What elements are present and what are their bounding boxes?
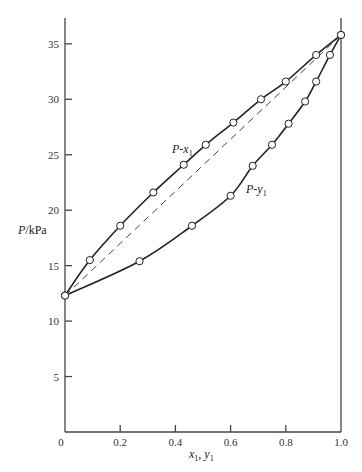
axes	[65, 18, 341, 432]
data-point-marker	[313, 78, 320, 85]
y-tick-label: 20	[48, 204, 60, 216]
y-tick-label: 10	[48, 315, 60, 327]
data-point-marker	[337, 31, 344, 38]
x-tick-label: 1.0	[334, 436, 348, 448]
p-x1-line	[65, 35, 341, 296]
raoult-s-law-linear-line	[65, 35, 341, 296]
data-point-marker	[136, 258, 143, 265]
y-tick-label: 35	[48, 38, 60, 50]
series-labels: P-x1P-y1	[171, 142, 267, 198]
data-series	[61, 31, 344, 299]
x-tick-label: 0	[58, 436, 64, 448]
y-axis-label: P/kPa	[17, 223, 47, 237]
series-label-p-x1: P-x1	[171, 142, 193, 158]
data-point-marker	[249, 162, 256, 169]
data-point-marker	[230, 119, 237, 126]
y-tick-label: 5	[54, 371, 60, 383]
data-point-marker	[313, 51, 320, 58]
x-axis-label: x1, y1	[188, 447, 214, 463]
data-point-marker	[326, 51, 333, 58]
data-point-marker	[117, 222, 124, 229]
data-point-marker	[202, 141, 209, 148]
y-tick-label: 30	[48, 93, 60, 105]
x-tick-label: 0.8	[279, 436, 293, 448]
data-point-marker	[282, 78, 289, 85]
data-point-marker	[86, 257, 93, 264]
data-point-marker	[285, 120, 292, 127]
series-label-p-y1: P-y1	[245, 182, 267, 198]
x-tick-label: 0.2	[113, 436, 127, 448]
y-tick-label: 25	[48, 149, 60, 161]
data-point-marker	[188, 222, 195, 229]
p-y1-line	[65, 35, 341, 296]
data-point-marker	[150, 189, 157, 196]
data-point-marker	[302, 98, 309, 105]
data-point-marker	[227, 192, 234, 199]
x-tick-label: 0.4	[169, 436, 183, 448]
data-point-marker	[257, 96, 264, 103]
data-point-marker	[268, 141, 275, 148]
x-tick-label: 0.6	[224, 436, 238, 448]
vle-pressure-composition-chart: 510152025303500.20.40.60.81.0 P-x1P-y1 P…	[0, 0, 362, 472]
y-tick-label: 15	[48, 260, 60, 272]
data-point-marker	[180, 161, 187, 168]
data-point-marker	[61, 292, 68, 299]
